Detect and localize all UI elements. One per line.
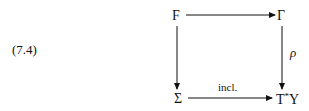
arrows-layer <box>0 0 309 111</box>
